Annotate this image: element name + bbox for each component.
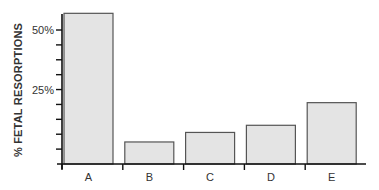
bar-chart: 25%50% ABCDE % FETAL RESORPTIONS	[0, 0, 379, 190]
bar-B	[125, 142, 174, 164]
x-tick-label-A: A	[85, 171, 93, 183]
y-tick-label: 50%	[32, 24, 54, 36]
bar-E	[307, 103, 356, 164]
bar-C	[186, 132, 235, 164]
x-tick-label-D: D	[267, 171, 275, 183]
y-axis-title: % FETAL RESORPTIONS	[12, 23, 24, 157]
bar-A	[64, 13, 113, 164]
x-ticks: ABCDE	[62, 164, 335, 183]
x-tick-label-C: C	[206, 171, 214, 183]
x-tick-label-B: B	[146, 171, 153, 183]
bars-layer	[64, 13, 356, 164]
x-tick-label-E: E	[328, 171, 335, 183]
bar-D	[246, 125, 295, 164]
y-tick-label: 25%	[32, 84, 54, 96]
y-ticks: 25%50%	[32, 24, 62, 149]
